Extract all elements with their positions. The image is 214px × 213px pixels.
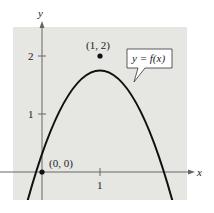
y-axis-label: y bbox=[37, 7, 43, 19]
callout-label: y = f(x) bbox=[131, 52, 165, 65]
point-max-label: (1, 2) bbox=[86, 39, 110, 52]
graph-figure: x y 1 1 2 (0, 0) (1, 2) y = f(x) bbox=[0, 0, 214, 213]
x-tick-label-1: 1 bbox=[97, 179, 103, 191]
y-tick-label-1: 1 bbox=[28, 108, 34, 120]
x-axis-label: x bbox=[196, 166, 202, 178]
y-tick-label-2: 2 bbox=[28, 50, 34, 62]
point-origin-label: (0, 0) bbox=[49, 157, 73, 170]
graph-svg: x y 1 1 2 (0, 0) (1, 2) y = f(x) bbox=[0, 0, 214, 213]
point-max bbox=[97, 53, 102, 58]
point-origin bbox=[39, 169, 44, 174]
y-axis-arrow-icon bbox=[40, 21, 45, 28]
x-axis-arrow-icon bbox=[188, 170, 195, 175]
